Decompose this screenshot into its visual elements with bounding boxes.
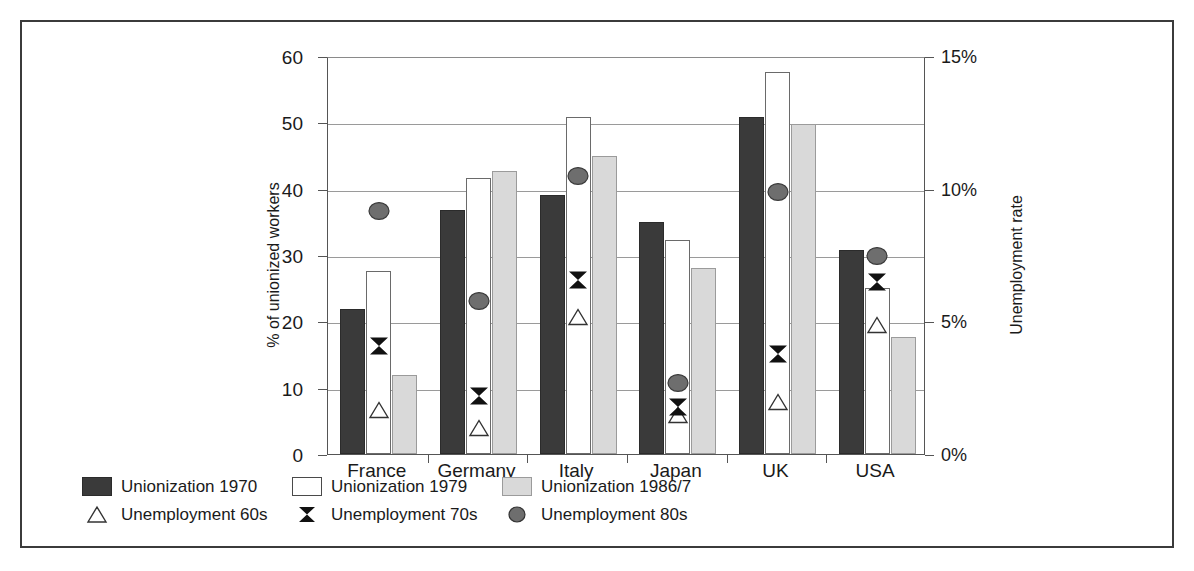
filled-light-square-icon [502, 477, 532, 496]
bar [440, 210, 465, 454]
y-axis-left-tick-mark [318, 123, 327, 124]
bowtie-marker-icon [292, 505, 322, 524]
bar [366, 271, 391, 454]
legend-label: Unionization 1986/7 [541, 478, 691, 495]
y-axis-left-tick-mark [318, 57, 327, 58]
gridline [328, 390, 924, 391]
bar [340, 309, 365, 454]
legend-row-unemployment: Unemployment 60s Unemployment 70s Unempl… [82, 502, 702, 527]
y-axis-right-tick-label: 10% [941, 181, 977, 199]
x-axis-tick-mark [527, 454, 528, 463]
bar [891, 337, 916, 454]
legend-item-unionization-1986[interactable]: Unionization 1986/7 [502, 477, 691, 496]
bar [392, 375, 417, 454]
x-axis-tick-mark [428, 454, 429, 463]
bar [839, 250, 864, 454]
y-axis-right-title: Unemployment rate [1008, 100, 1026, 430]
y-axis-left-tick-label: 30 [282, 247, 303, 266]
y-axis-left-tick-mark [318, 190, 327, 191]
legend-label: Unionization 1970 [121, 478, 257, 495]
legend-item-unionization-1970[interactable]: Unionization 1970 [82, 477, 292, 496]
legend-label: Unemployment 80s [541, 506, 687, 523]
y-axis-left-tick-label: 0 [292, 446, 303, 465]
chart-plot-area: % of unionized workers Unemployment rate… [307, 38, 927, 538]
legend-row-unionization: Unionization 1970 Unionization 1979 Unio… [82, 474, 702, 499]
legend-label: Unemployment 60s [121, 506, 267, 523]
x-axis-category-label: UK [762, 460, 788, 482]
outlined-white-square-icon [292, 477, 322, 496]
y-axis-right-tick-mark [925, 190, 934, 191]
y-axis-left-tick-mark [318, 455, 327, 456]
bar [691, 268, 716, 454]
circle-marker-icon [367, 201, 391, 225]
y-axis-right-tick-label: 0% [941, 446, 967, 464]
bar [592, 156, 617, 454]
y-axis-left-tick-label: 50 [282, 114, 303, 133]
y-axis-left-tick-label: 10 [282, 379, 303, 398]
gridline [328, 191, 924, 192]
y-axis-left-tick-mark [318, 322, 327, 323]
bar [492, 171, 517, 454]
y-axis-right-tick-mark [925, 322, 934, 323]
bar [739, 117, 764, 454]
legend-label: Unemployment 70s [331, 506, 477, 523]
bar [466, 178, 491, 454]
gridline [328, 323, 924, 324]
bar [765, 72, 790, 454]
triangle-marker-icon [82, 505, 112, 524]
legend-item-unemployment-60s[interactable]: Unemployment 60s [82, 505, 292, 524]
gridline [328, 257, 924, 258]
gridline [328, 124, 924, 125]
legend-label: Unionization 1979 [331, 478, 467, 495]
legend-item-unionization-1979[interactable]: Unionization 1979 [292, 477, 502, 496]
bar [791, 124, 816, 454]
bar [566, 117, 591, 454]
filled-dark-square-icon [82, 477, 112, 496]
plot-box [327, 57, 925, 455]
y-axis-right-tick-label: 5% [941, 313, 967, 331]
y-axis-left-tick-label: 60 [282, 48, 303, 67]
bar [639, 222, 664, 454]
bar [540, 195, 565, 454]
bar [865, 288, 890, 454]
y-axis-left-tick-label: 40 [282, 180, 303, 199]
x-axis-tick-mark [727, 454, 728, 463]
y-axis-right-tick-mark [925, 57, 934, 58]
figure-frame: % of unionized workers Unemployment rate… [20, 20, 1174, 548]
bar [665, 240, 690, 454]
y-axis-left-tick-mark [318, 256, 327, 257]
circle-marker-icon [502, 505, 532, 524]
y-axis-left-title: % of unionized workers [265, 100, 283, 430]
y-axis-right-tick-label: 15% [941, 48, 977, 66]
legend-item-unemployment-70s[interactable]: Unemployment 70s [292, 505, 502, 524]
legend-item-unemployment-80s[interactable]: Unemployment 80s [502, 505, 687, 524]
chart-legend: Unionization 1970 Unionization 1979 Unio… [82, 474, 702, 530]
x-axis-tick-mark [826, 454, 827, 463]
x-axis-category-label: USA [856, 460, 895, 482]
y-axis-right-tick-mark [925, 455, 934, 456]
x-axis-tick-mark [627, 454, 628, 463]
y-axis-left-tick-label: 20 [282, 313, 303, 332]
y-axis-left-tick-mark [318, 389, 327, 390]
